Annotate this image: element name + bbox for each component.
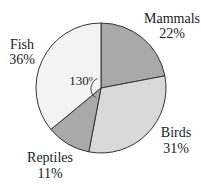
label-reptiles-pct: 11% xyxy=(37,166,62,181)
label-birds-pct: 31% xyxy=(163,141,189,156)
label-fish-name: Fish xyxy=(10,37,34,52)
label-mammals-name: Mammals xyxy=(144,11,200,26)
pie-chart: Mammals 22% Fish 36% Birds 31% Reptiles … xyxy=(0,0,201,185)
label-birds-name: Birds xyxy=(161,125,191,140)
pie-slices xyxy=(36,23,166,153)
label-reptiles-name: Reptiles xyxy=(27,150,73,165)
angle-label: 130º xyxy=(69,73,93,88)
label-fish-pct: 36% xyxy=(9,52,35,67)
label-mammals-pct: 22% xyxy=(159,26,185,41)
